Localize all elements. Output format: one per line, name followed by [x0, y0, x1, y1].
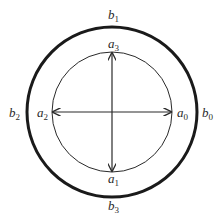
label-b2: b2	[9, 105, 20, 122]
label-a1: a1	[108, 171, 119, 188]
label-a0: a0	[177, 105, 189, 122]
label-b0: b0	[202, 105, 214, 122]
circle-diagram: b1 a3 b2 a2 a0 b0 a1 b3	[0, 0, 224, 223]
label-a2: a2	[37, 105, 48, 122]
label-b3: b3	[108, 198, 120, 215]
label-b1: b1	[108, 7, 119, 24]
label-a3: a3	[108, 36, 120, 53]
